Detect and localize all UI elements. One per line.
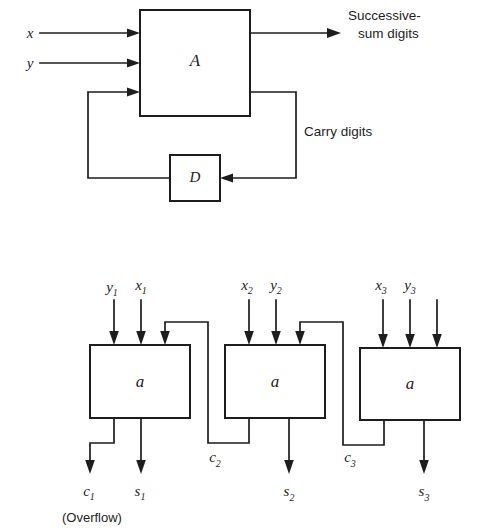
stage-2-box-label: a [271,372,280,391]
input-label-x: x [26,25,34,41]
delay-box-d-label: D [189,169,201,185]
stage-3-carry-in-wire [432,300,442,348]
stage-1-sum-out-wire [136,418,146,474]
output-label-s1: s1 [135,483,146,502]
stage-2-input-x2-wire [244,300,254,345]
figure-root: A D x y Successive- sum digits Carry dig… [0,0,486,532]
x-input-wire [40,29,140,38]
stage-2-sum-out-wire [284,418,294,474]
stage-2-input-label-x2: x2 [240,277,253,296]
input-label-y: y [25,55,34,71]
stage-2-input-label-y2: y2 [268,277,282,296]
successive-sum-wire [250,28,341,38]
stage-3-input-label-x3: x3 [374,277,387,296]
output-label-c1: c1 [83,483,95,502]
stage-1-carry-out-wire [85,418,114,474]
stage-1-input-label-x1: x1 [134,277,147,296]
stage-3-box-label: a [406,374,415,393]
bottom-diagram-group: a a [62,277,460,525]
block-diagram-figure: A D x y Successive- sum digits Carry dig… [0,0,486,532]
successive-sum-label-line1: Successive- [348,8,421,23]
stage-1-input-x1-wire [136,300,146,345]
stage-1-input-y1-wire [109,300,119,345]
output-label-s2: s2 [284,483,295,503]
stage-3-input-label-y3: y3 [402,277,416,296]
adder-box-a-label: A [189,51,201,70]
output-label-s3: s3 [419,483,430,503]
top-diagram-group: A D x y Successive- sum digits Carry dig… [25,8,421,201]
stage-3-input-y3-wire [405,300,415,348]
stage-3-sum-out-wire [419,420,429,474]
overflow-note: (Overflow) [62,510,122,525]
output-label-c2: c2 [209,449,221,469]
stage-2-input-y2-wire [271,300,281,345]
y-input-wire [40,59,140,68]
successive-sum-label-line2: sum digits [358,26,419,41]
carry-digits-label: Carry digits [304,124,373,139]
stage-1-input-label-y1: y1 [104,279,118,298]
stage-1-carry-in-arrow [160,331,170,345]
stage-3-input-x3-wire [378,300,388,348]
output-label-c3: c3 [344,449,356,469]
stage-1-box-label: a [136,372,145,391]
stage-2-carry-in-arrow [295,331,305,345]
